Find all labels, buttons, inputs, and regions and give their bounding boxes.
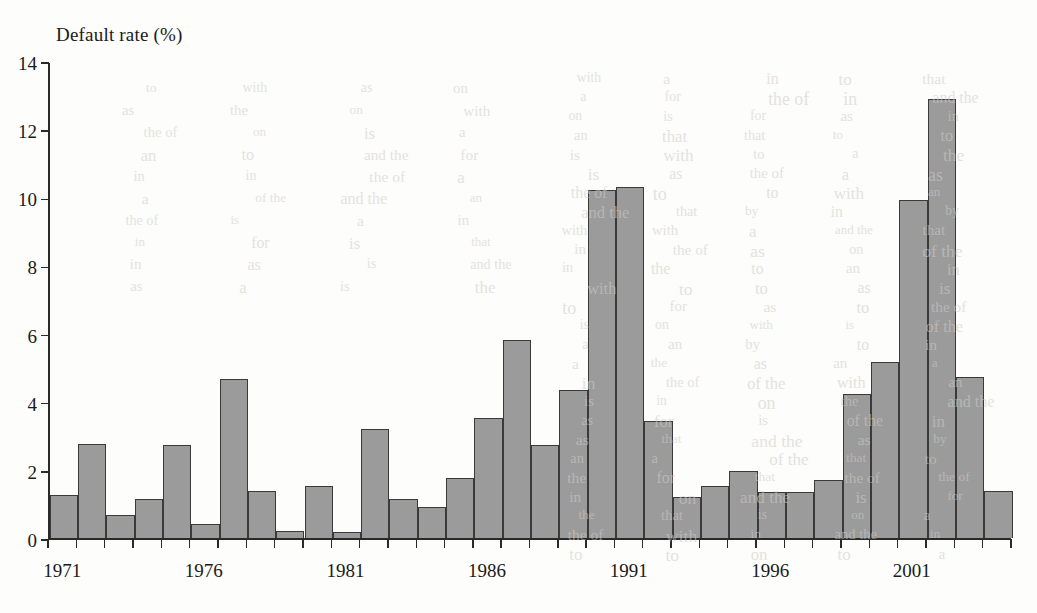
x-tick-label-2001: 2001 — [893, 560, 931, 582]
bar-1976 — [191, 524, 219, 539]
x-tick-label-1971: 1971 — [43, 560, 81, 582]
y-tick-label-0: 0 — [28, 531, 38, 550]
bar-1992 — [644, 421, 672, 539]
y-tick-label-6: 6 — [28, 326, 38, 345]
x-tick — [359, 539, 360, 548]
bar-1973 — [106, 515, 134, 538]
x-tick — [331, 539, 332, 548]
bar-series — [50, 63, 1011, 538]
x-tick — [699, 539, 700, 548]
bar-2000 — [871, 362, 899, 538]
bar-1975 — [163, 445, 191, 539]
bar-1990 — [588, 190, 616, 538]
y-tick-6 — [41, 335, 49, 336]
y-tick-14 — [41, 62, 49, 63]
x-tick — [642, 539, 643, 548]
bar-1999 — [843, 394, 871, 538]
y-tick-8 — [41, 267, 49, 268]
x-tick — [104, 539, 105, 548]
plot-area: 02468101214 1971197619811986199119962001 — [48, 63, 1011, 540]
bar-1996 — [758, 492, 786, 538]
x-tick — [529, 539, 530, 548]
bar-1997 — [786, 492, 814, 538]
bar-2004 — [984, 491, 1012, 538]
y-tick-label-2: 2 — [28, 462, 38, 481]
y-tick-label-12: 12 — [18, 122, 37, 141]
y-axis-title: Default rate (%) — [56, 24, 183, 46]
x-tick — [472, 539, 473, 548]
x-tick — [302, 539, 303, 548]
x-tick — [954, 539, 955, 548]
x-tick-label-1991: 1991 — [610, 560, 648, 582]
figure-canvas: Default rate (%) 02468101214 19711976198… — [0, 0, 1037, 613]
bar-1995 — [729, 471, 757, 538]
bar-2003 — [956, 377, 984, 539]
x-tick — [727, 539, 728, 548]
x-tick — [812, 539, 813, 548]
x-tick — [982, 539, 983, 548]
bar-1993 — [673, 497, 701, 539]
y-tick-2 — [41, 471, 49, 472]
bar-1972 — [78, 444, 106, 539]
background-bleed-text: to — [569, 545, 582, 565]
x-tick — [784, 539, 785, 548]
y-tick-label-14: 14 — [18, 54, 37, 73]
x-tick — [755, 539, 756, 548]
bar-1998 — [814, 480, 842, 539]
bar-1982 — [361, 429, 389, 538]
bar-1988 — [531, 445, 559, 538]
x-tick — [897, 539, 898, 548]
bar-2001 — [899, 200, 927, 538]
x-tick — [189, 539, 190, 548]
x-tick — [161, 539, 162, 548]
x-tick — [274, 539, 275, 548]
bar-1981 — [333, 532, 361, 538]
x-tick — [670, 539, 671, 548]
x-tick — [76, 539, 77, 548]
bar-1978 — [248, 491, 276, 538]
x-tick — [246, 539, 247, 548]
bar-1986 — [474, 418, 502, 538]
bar-1985 — [446, 478, 474, 538]
x-tick — [500, 539, 501, 548]
bar-1989 — [559, 390, 587, 539]
x-tick — [416, 539, 417, 548]
x-tick — [132, 539, 133, 548]
y-tick-10 — [41, 199, 49, 200]
x-tick — [444, 539, 445, 548]
x-tick-label-1981: 1981 — [326, 560, 364, 582]
x-tick — [387, 539, 388, 548]
x-tick — [869, 539, 870, 548]
x-tick — [47, 539, 48, 548]
x-tick-label-1986: 1986 — [468, 560, 506, 582]
background-bleed-text: to — [665, 545, 679, 566]
y-tick-label-4: 4 — [28, 394, 38, 413]
background-bleed-text: to — [838, 545, 851, 565]
y-tick-4 — [41, 403, 49, 404]
y-tick-12 — [41, 130, 49, 131]
x-tick-label-1996: 1996 — [751, 560, 789, 582]
x-tick — [614, 539, 615, 548]
y-tick-label-8: 8 — [28, 258, 38, 277]
bar-1974 — [135, 499, 163, 539]
bar-1983 — [389, 499, 417, 539]
x-tick — [840, 539, 841, 548]
x-tick — [557, 539, 558, 548]
x-tick-label-1976: 1976 — [185, 560, 223, 582]
bar-2002 — [928, 99, 956, 539]
bar-1991 — [616, 187, 644, 539]
bar-1987 — [503, 340, 531, 538]
bar-1977 — [220, 379, 248, 538]
background-bleed-text: a — [938, 545, 945, 563]
x-tick — [925, 539, 926, 548]
bar-1980 — [305, 486, 333, 539]
x-tick — [217, 539, 218, 548]
x-tick — [585, 539, 586, 548]
y-tick-label-10: 10 — [18, 190, 37, 209]
bar-1979 — [276, 531, 304, 538]
x-tick — [1010, 539, 1011, 548]
bar-1984 — [418, 507, 446, 538]
bar-1994 — [701, 486, 729, 539]
bar-1971 — [50, 495, 78, 538]
